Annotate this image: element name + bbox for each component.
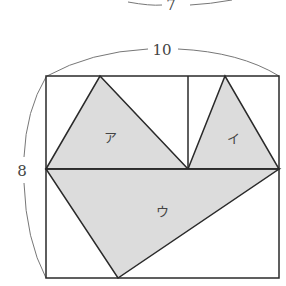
region-label-u: ウ	[156, 204, 169, 219]
triangle-i	[188, 76, 279, 169]
region-label-i: イ	[227, 131, 240, 146]
width-label: 10	[152, 41, 171, 59]
geometry-figure: 7 10 8 ア イ ウ	[0, 0, 286, 286]
triangle-u	[46, 169, 279, 278]
width-brace-left	[47, 49, 148, 76]
triangle-a	[46, 76, 188, 169]
top-brace-left	[128, 2, 162, 5]
top-length-label: 7	[166, 0, 176, 14]
height-brace-bottom	[24, 183, 46, 278]
region-label-a: ア	[104, 130, 117, 145]
top-brace-right	[190, 0, 232, 5]
height-brace-top	[24, 77, 46, 157]
height-label: 8	[17, 162, 27, 180]
width-brace-right	[178, 49, 279, 76]
